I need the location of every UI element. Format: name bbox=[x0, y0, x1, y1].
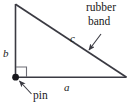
pin-arrow-icon bbox=[20, 81, 32, 94]
pin-dot-icon bbox=[12, 74, 19, 81]
label-side-b: b bbox=[3, 48, 9, 59]
label-pin: pin bbox=[33, 90, 48, 102]
label-side-c: c bbox=[70, 33, 75, 44]
geometry-figure: b c a rubber band pin bbox=[0, 0, 133, 106]
label-side-a: a bbox=[64, 82, 70, 93]
rubber-band-arrow-icon bbox=[89, 34, 101, 50]
label-rubber-band-line1: rubber bbox=[86, 2, 116, 14]
label-rubber-band-line2: band bbox=[88, 16, 110, 28]
